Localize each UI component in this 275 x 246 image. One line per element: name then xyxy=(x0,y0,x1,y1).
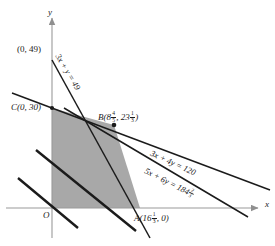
label-vertex-A-close: , 0) xyxy=(157,213,169,223)
label-vertex-C: C(0, 30) xyxy=(11,103,41,112)
label-vertex-A: A(1613, 0) xyxy=(134,212,169,224)
label-axis-y: y xyxy=(48,8,52,17)
label-vertex-B-open: B(8 xyxy=(98,112,111,122)
label-vertex-A-open: A(16 xyxy=(134,213,152,223)
vertex-dot-C xyxy=(50,106,54,110)
vertex-dot-B xyxy=(112,123,117,128)
fraction-A-x-denominator: 3 xyxy=(152,219,157,225)
label-vertex-B-mid: , 23 xyxy=(116,112,130,122)
label-vertex-B-close: ) xyxy=(135,112,138,122)
fraction-A-x: 13 xyxy=(152,212,157,224)
label-origin: O xyxy=(43,211,50,220)
label-axis-x: x xyxy=(265,200,269,209)
label-vertex-B: B(845, 2313) xyxy=(98,111,138,123)
label-point-0-49: (0, 49) xyxy=(17,45,41,54)
linear-programming-figure: (0, 49) C(0, 30) B(845, 2313) A(1613, 0)… xyxy=(0,0,275,246)
